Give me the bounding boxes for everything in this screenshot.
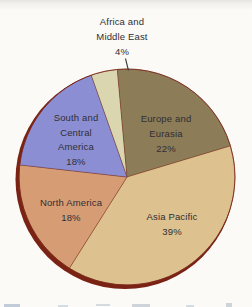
pie-chart-figure: Africa and Middle East 4% Europe and Eur…: [0, 0, 252, 307]
clipped-caption-remnant: [0, 300, 252, 307]
pie-chart: [0, 0, 252, 307]
